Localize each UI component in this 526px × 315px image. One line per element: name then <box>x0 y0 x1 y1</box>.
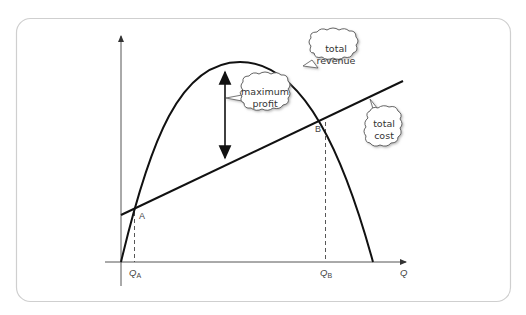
total-revenue-callout-line2: revenue <box>317 55 356 66</box>
maximum-profit-callout-line1: maximum <box>241 86 289 97</box>
total-cost-callout-line2: cost <box>374 130 394 141</box>
total-revenue-callout-line1: total <box>325 43 347 54</box>
diagram-frame <box>17 19 511 302</box>
profit-diagram: A B QA QB Q total revenue maximum profit… <box>0 0 526 315</box>
x-axis-label: Q <box>400 267 408 278</box>
maximum-profit-callout-line2: profit <box>252 98 278 109</box>
point-a-label: A <box>139 211 145 221</box>
total-cost-callout-line1: total <box>373 118 395 129</box>
point-b-label: B <box>315 124 321 134</box>
